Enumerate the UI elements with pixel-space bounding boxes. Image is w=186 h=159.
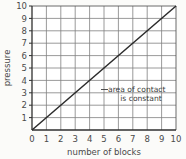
x-tick-label-1: 1: [44, 134, 49, 144]
x-tick-label-6: 6: [116, 134, 121, 144]
x-tick-label-5: 5: [101, 134, 106, 144]
x-tick-label-10: 10: [171, 134, 182, 144]
x-tick-label-4: 4: [87, 134, 92, 144]
y-tick-label-10: 10: [16, 1, 27, 11]
x-tick-label-2: 2: [58, 134, 63, 144]
annotation-line-1: area of contact: [108, 85, 166, 94]
x-tick-label-3: 3: [72, 134, 77, 144]
y-tick-label-5: 5: [22, 63, 27, 73]
pressure-vs-blocks-chart: 10 9 8 7 6 5 4 3 2 1 0 1 2 3 4 5 6 7 8 9…: [0, 0, 186, 159]
y-tick-label-6: 6: [22, 51, 27, 61]
x-tick-label-7: 7: [130, 134, 135, 144]
x-axis-title: number of blocks: [67, 147, 141, 157]
y-tick-label-3: 3: [22, 88, 27, 98]
y-tick-label-9: 9: [22, 14, 27, 24]
x-tick-label-9: 9: [159, 134, 164, 144]
y-tick-label-7: 7: [22, 38, 27, 48]
annotation-line-2: is constant: [120, 94, 162, 103]
y-axis-title: pressure: [2, 50, 12, 87]
x-tick-label-8: 8: [144, 134, 149, 144]
y-tick-label-4: 4: [22, 76, 27, 86]
chart-figure: 10 9 8 7 6 5 4 3 2 1 0 1 2 3 4 5 6 7 8 9…: [0, 0, 186, 159]
x-tick-label-0: 0: [29, 134, 34, 144]
y-tick-label-2: 2: [22, 100, 27, 110]
y-tick-label-1: 1: [22, 113, 27, 123]
y-tick-label-8: 8: [22, 26, 27, 36]
